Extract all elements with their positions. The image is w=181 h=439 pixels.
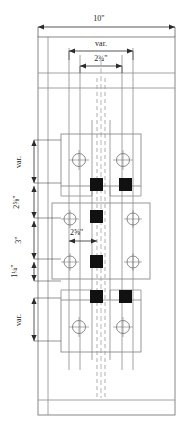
dim-label-upper-spacing: 2⅝" (13, 187, 21, 217)
dim-label-upper-var: var. (15, 147, 23, 177)
filled-bolt (90, 255, 103, 268)
dim-label-lower-var: var. (15, 305, 23, 335)
dim-overall-width (38, 27, 175, 37)
dim-label-middle-spacing: 3" (15, 225, 23, 255)
filled-bolt (90, 290, 103, 303)
filled-bolt (119, 290, 132, 303)
drawing-vector-layer (0, 0, 181, 439)
dim-label-bolt-gage: 2¾" (94, 55, 107, 63)
column-outline (38, 37, 175, 415)
dim-label-lower-edge: 1¼" (11, 256, 19, 286)
filled-bolt-group (90, 178, 132, 303)
dim-label-overall-width: 10" (93, 15, 104, 23)
filled-bolt (90, 210, 103, 223)
filled-bolt (90, 178, 103, 191)
dim-label-interior-bolt-gage: 2⅝" (70, 229, 83, 237)
engineering-drawing-canvas: 10" var. 2¾" 2⅝" var. 2⅝" 3" 1¼" var. (0, 0, 181, 439)
top-flange-band (38, 73, 175, 88)
dim-label-plate-width-var: var. (95, 40, 107, 48)
filled-bolt (119, 178, 132, 191)
